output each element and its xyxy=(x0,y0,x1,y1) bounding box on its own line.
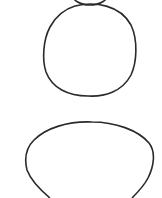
middle-circle xyxy=(44,4,136,96)
sketch-canvas xyxy=(0,0,162,198)
bottom-oval xyxy=(26,122,154,198)
